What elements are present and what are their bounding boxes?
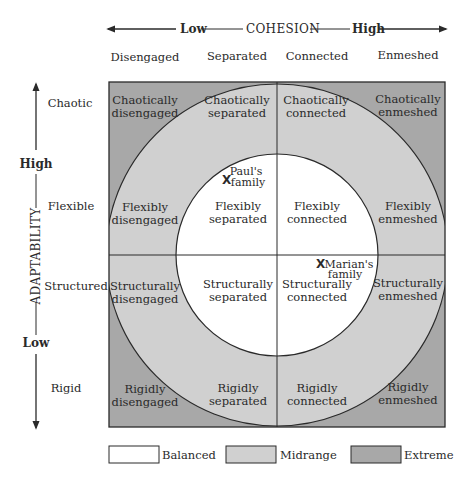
col-head-separated: Separated [207,49,268,63]
legend-label-balanced: Balanced [162,448,216,462]
legend-item-balanced: Balanced [109,446,216,463]
row-head-structured: Structured [44,279,108,293]
circumplex-diagram: Low COHESION High Disengaged Separated C… [0,0,467,490]
col-head-enmeshed: Enmeshed [378,48,440,62]
legend-item-midrange: Midrange [226,446,337,463]
adaptability-levels: Chaotic Flexible Structured Rigid [44,96,108,395]
circumplex-grid [106,82,448,427]
cell-structurally-enmeshed: Structurallyenmeshed [373,276,444,303]
cell-flexibly-connected: Flexiblyconnected [287,199,348,226]
row-head-flexible: Flexible [48,199,95,213]
cohesion-title: COHESION [246,22,320,36]
cell-structurally-disengaged: Structurallydisengaged [110,279,181,306]
col-head-connected: Connected [286,49,349,63]
marker-label-pauls-family: Paul'sfamily [230,165,266,189]
col-head-disengaged: Disengaged [111,50,180,64]
row-head-chaotic: Chaotic [48,96,93,110]
cell-flexibly-enmeshed: Flexiblyenmeshed [378,199,438,226]
adaptability-high-label: High [19,157,52,171]
legend-item-extreme: Extreme [351,446,454,463]
legend-swatch-extreme [351,446,401,463]
adaptability-title: ADAPTABILITY [29,207,43,306]
cell-flexibly-separated: Flexiblyseparated [209,199,268,226]
legend: Balanced Midrange Extreme [109,446,454,463]
cell-chaotically-disengaged: Chaoticallydisengaged [112,93,180,120]
row-head-rigid: Rigid [51,381,82,395]
legend-label-midrange: Midrange [280,448,337,462]
cell-structurally-separated: Structurallyseparated [203,277,274,304]
cohesion-axis: Low COHESION High [108,22,446,36]
adaptability-low-label: Low [23,336,50,350]
legend-swatch-midrange [226,446,276,463]
cell-chaotically-connected: Chaoticallyconnected [283,93,349,120]
legend-swatch-balanced [109,446,159,463]
legend-label-extreme: Extreme [404,448,454,462]
cohesion-levels: Disengaged Separated Connected Enmeshed [111,48,440,64]
cell-chaotically-enmeshed: Chaoticallyenmeshed [375,92,441,119]
cell-chaotically-separated: Chaoticallyseparated [204,93,270,120]
adaptability-axis: High ADAPTABILITY Low [19,84,52,428]
cell-structurally-connected: Structurallyconnected [282,277,353,304]
